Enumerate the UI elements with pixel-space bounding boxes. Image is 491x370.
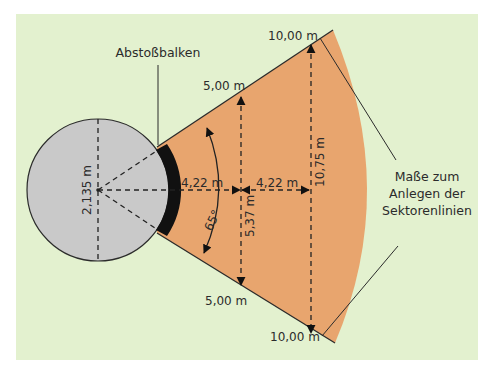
label-upper-10m: 10,00 m — [268, 29, 318, 43]
note-line-1: Maße zum — [395, 169, 460, 184]
label-distance-a: 4,22 m — [181, 176, 223, 190]
label-diameter: 2,135 m — [80, 165, 94, 215]
label-upper-5m: 5,00 m — [203, 79, 245, 93]
label-chord-5m: 5,37 m — [243, 195, 257, 237]
stop-board-label: Abstoßbalken — [116, 45, 201, 60]
note-line-3: Sektorenlinien — [382, 203, 472, 218]
label-chord-10m: 10,75 m — [313, 137, 327, 187]
label-distance-b: 4,22 m — [256, 176, 298, 190]
label-lower-10m: 10,00 m — [270, 330, 320, 344]
note-line-2: Anlegen der — [389, 186, 466, 201]
shot-put-sector-diagram: Abstoßbalken 5,00 m 10,00 m 5,00 m 10,00… — [0, 0, 491, 370]
label-lower-5m: 5,00 m — [205, 294, 247, 308]
